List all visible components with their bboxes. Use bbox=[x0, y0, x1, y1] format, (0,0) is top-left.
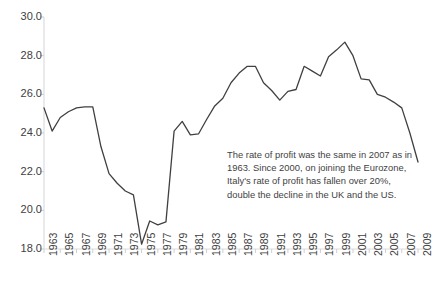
x-tick-label: 1999 bbox=[341, 233, 352, 256]
x-tick-label: 1997 bbox=[324, 233, 335, 256]
x-tick-label: 1963 bbox=[48, 233, 59, 256]
x-tick-label: 1971 bbox=[113, 233, 124, 256]
x-tick-label: 1977 bbox=[162, 233, 173, 256]
x-tick-label: 1983 bbox=[211, 233, 222, 256]
x-tick-label: 1993 bbox=[292, 233, 303, 256]
x-tick-label: 2003 bbox=[373, 233, 384, 256]
x-tick-label: 1967 bbox=[81, 233, 92, 256]
chart-container: 30.028.026.024.022.020.018.0 19631965196… bbox=[0, 0, 433, 298]
x-tick-label: 1991 bbox=[276, 233, 287, 256]
x-tick-label: 1975 bbox=[146, 233, 157, 256]
x-tick-label: 1969 bbox=[97, 233, 108, 256]
x-tick-label: 1965 bbox=[64, 233, 75, 256]
x-tick-label: 1979 bbox=[178, 233, 189, 256]
x-tick-label: 1973 bbox=[129, 233, 140, 256]
x-tick-label: 1987 bbox=[243, 233, 254, 256]
x-tick-label: 1981 bbox=[194, 233, 205, 256]
x-tick-label: 2007 bbox=[406, 233, 417, 256]
chart-annotation-text: The rate of profit was the same in 2007 … bbox=[227, 148, 413, 201]
x-tick-label: 1995 bbox=[308, 233, 319, 256]
x-tick-label: 2005 bbox=[389, 233, 400, 256]
x-tick-label: 2009 bbox=[422, 233, 433, 256]
x-tick-label: 1989 bbox=[259, 233, 270, 256]
x-tick-label: 2001 bbox=[357, 233, 368, 256]
x-tick-label: 1985 bbox=[227, 233, 238, 256]
